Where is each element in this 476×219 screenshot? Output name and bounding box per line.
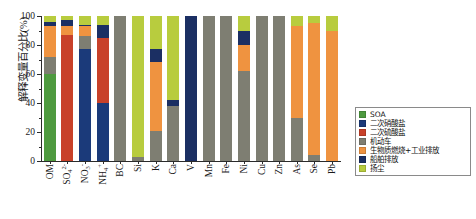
stacked-bar[interactable] [238, 16, 250, 161]
bar-segment [273, 16, 285, 161]
bar-segment [326, 16, 338, 31]
bar-segment [61, 26, 73, 35]
y-tick-minor [39, 118, 42, 119]
bar-segment [326, 31, 338, 162]
legend-item[interactable]: 二次硫酸盐 [359, 128, 467, 137]
bar-segment [238, 31, 250, 46]
y-tick [37, 45, 41, 46]
legend-swatch-icon [359, 165, 366, 172]
bar-segment [291, 118, 303, 162]
stacked-bar[interactable] [44, 16, 56, 161]
bar-slot [270, 16, 288, 161]
bar-segment [291, 16, 303, 26]
y-tick-minor [39, 60, 42, 61]
x-tick-label: SO42- [62, 164, 72, 185]
x-tick-label: Fe [221, 164, 231, 174]
stacked-bar[interactable] [167, 16, 179, 161]
chart-root: 解释变量百分比(%) 020406080100 OMSO42-NO3-NH4+B… [0, 0, 476, 219]
bar-segment [238, 16, 250, 31]
stacked-bar[interactable] [291, 16, 303, 161]
stacked-bar[interactable] [132, 16, 144, 161]
stacked-bar[interactable] [79, 16, 91, 161]
legend-item[interactable]: SOA [359, 110, 467, 119]
legend-swatch-icon [359, 111, 366, 118]
x-tick-label: As [292, 164, 302, 175]
bar-slot [288, 16, 306, 161]
y-tick-label: 0 [30, 156, 35, 166]
bar-slot [182, 16, 200, 161]
x-tick-label: Mn [204, 164, 214, 177]
x-label-slot: K [147, 162, 165, 202]
stacked-bar[interactable] [326, 16, 338, 161]
bar-segment [150, 62, 162, 130]
y-tick [37, 103, 41, 104]
bar-slot [129, 16, 147, 161]
legend-item[interactable]: 机动车 [359, 137, 467, 146]
stacked-bar[interactable] [256, 16, 268, 161]
x-axis-labels: OMSO42-NO3-NH4+BCSiKCaVMnFeNiCuZnAsSePb [41, 162, 341, 202]
legend-label: 船舶排放 [370, 155, 398, 164]
legend-item[interactable]: 船舶排放 [359, 155, 467, 164]
legend-item[interactable]: 扬尘 [359, 164, 467, 173]
stacked-bar[interactable] [203, 16, 215, 161]
x-label-slot: Se [306, 162, 324, 202]
legend-label: 二次硫酸盐 [370, 128, 405, 137]
bar-group [41, 16, 341, 161]
bar-segment [44, 74, 56, 161]
legend-item[interactable]: 二次硝酸盐 [359, 119, 467, 128]
x-label-slot: NO3- [76, 162, 94, 202]
x-tick-label: Si [133, 164, 143, 172]
bar-slot [235, 16, 253, 161]
stacked-bar[interactable] [61, 16, 73, 161]
bar-segment [256, 16, 268, 161]
bar-segment [238, 45, 250, 71]
bar-segment [132, 16, 144, 157]
y-tick-minor [39, 31, 42, 32]
bar-slot [217, 16, 235, 161]
legend-item[interactable]: 生物质燃烧+工业排放 [359, 146, 467, 155]
bar-segment [79, 26, 91, 36]
bar-segment [150, 49, 162, 62]
x-tick-label: NH4+ [98, 164, 108, 185]
bar-segment [203, 16, 215, 161]
stacked-bar[interactable] [97, 16, 109, 161]
x-label-slot: Ni [235, 162, 253, 202]
bar-segment [79, 16, 91, 25]
legend-swatch-icon [359, 120, 366, 127]
bar-segment [308, 23, 320, 155]
legend-label: SOA [370, 110, 386, 119]
bar-slot [147, 16, 165, 161]
y-tick-label: 100 [21, 11, 35, 21]
stacked-bar[interactable] [185, 16, 197, 161]
x-tick-label: Ni [239, 164, 249, 174]
x-tick-label: Zn [274, 164, 284, 175]
legend-label: 机动车 [370, 137, 391, 146]
stacked-bar[interactable] [308, 16, 320, 161]
bar-slot [59, 16, 77, 161]
stacked-bar[interactable] [220, 16, 232, 161]
y-tick-minor [39, 89, 42, 90]
stacked-bar[interactable] [150, 16, 162, 161]
bar-segment [238, 71, 250, 161]
legend-swatch-icon [359, 147, 366, 154]
x-label-slot: Si [129, 162, 147, 202]
x-tick-label: Cu [257, 164, 267, 175]
bar-segment [97, 38, 109, 103]
bar-segment [308, 16, 320, 23]
bar-segment [114, 16, 126, 161]
stacked-bar[interactable] [273, 16, 285, 161]
bar-slot [94, 16, 112, 161]
bar-segment [44, 26, 56, 56]
bar-slot [76, 16, 94, 161]
stacked-bar[interactable] [114, 16, 126, 161]
bar-slot [164, 16, 182, 161]
x-label-slot: OM [41, 162, 59, 202]
x-label-slot: Pb [323, 162, 341, 202]
x-label-slot: V [182, 162, 200, 202]
legend: SOA二次硝酸盐二次硫酸盐机动车生物质燃烧+工业排放船舶排放扬尘 [355, 107, 471, 176]
y-tick [37, 16, 41, 17]
bar-segment [79, 49, 91, 161]
bar-slot [306, 16, 324, 161]
x-tick-label: Ca [168, 164, 178, 175]
legend-swatch-icon [359, 129, 366, 136]
